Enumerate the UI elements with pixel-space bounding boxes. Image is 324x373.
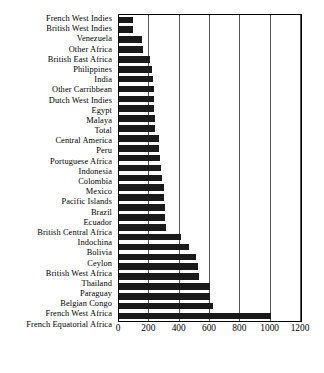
category-label: India: [0, 75, 114, 85]
category-label: Ceylon: [0, 259, 114, 269]
bar-row: [119, 163, 301, 173]
category-label: Pacific Islands: [0, 197, 114, 207]
bar-row: [119, 35, 301, 45]
category-label: Belgian Congo: [0, 299, 114, 309]
bar[interactable]: [119, 56, 150, 63]
bar[interactable]: [119, 283, 210, 290]
bar-row: [119, 74, 301, 84]
bar[interactable]: [119, 46, 143, 53]
bar-row: [119, 25, 301, 35]
bar[interactable]: [119, 76, 153, 83]
category-label: Indochina: [0, 238, 114, 248]
bar[interactable]: [119, 184, 164, 191]
category-axis-labels: French West IndiesBritish West IndiesVen…: [0, 14, 114, 320]
category-label: Dutch West Indies: [0, 96, 114, 106]
bar[interactable]: [119, 105, 154, 112]
bar-row: [119, 143, 301, 153]
category-label: Brazil: [0, 208, 114, 218]
x-tick-label: 1000: [260, 322, 279, 334]
bar-row: [119, 124, 301, 134]
bar-row: [119, 311, 301, 321]
x-axis-tick-labels: 020040060080010001200: [0, 322, 324, 340]
bar[interactable]: [119, 234, 181, 241]
category-label: Venezuela: [0, 34, 114, 44]
x-tick-label: 800: [232, 322, 246, 334]
bar-row: [119, 232, 301, 242]
category-label: British East Africa: [0, 55, 114, 65]
x-tick-label: 200: [141, 322, 155, 334]
category-label: Colombia: [0, 177, 114, 187]
bar-row: [119, 64, 301, 74]
category-label: French West Africa: [0, 309, 114, 319]
bar[interactable]: [119, 155, 160, 162]
category-label: Malaya: [0, 116, 114, 126]
bar[interactable]: [119, 194, 164, 201]
bar-chart: French West IndiesBritish West IndiesVen…: [0, 0, 324, 373]
bar[interactable]: [119, 135, 159, 142]
bar-row: [119, 45, 301, 55]
bar-row: [119, 282, 301, 292]
bar-row: [119, 291, 301, 301]
bar-row: [119, 133, 301, 143]
plot-area: [118, 14, 302, 322]
bar-row: [119, 94, 301, 104]
bar-row: [119, 183, 301, 193]
bar-row: [119, 222, 301, 232]
bar-row: [119, 153, 301, 163]
bar-row: [119, 193, 301, 203]
bar[interactable]: [119, 303, 213, 310]
bar-row: [119, 212, 301, 222]
bar-row: [119, 203, 301, 213]
bar[interactable]: [119, 293, 210, 300]
category-label: Philippines: [0, 65, 114, 75]
bar-row: [119, 301, 301, 311]
bar-row: [119, 54, 301, 64]
bar-row: [119, 242, 301, 252]
bar-row: [119, 114, 301, 124]
bar[interactable]: [119, 263, 198, 270]
category-label: Central America: [0, 136, 114, 146]
bar[interactable]: [119, 36, 142, 43]
category-label: Total: [0, 126, 114, 136]
category-label: Mexico: [0, 187, 114, 197]
category-label: Ecuador: [0, 218, 114, 228]
bar-row: [119, 84, 301, 94]
x-tick-label: 600: [202, 322, 216, 334]
bar[interactable]: [119, 244, 189, 251]
bar-row: [119, 272, 301, 282]
bar[interactable]: [119, 165, 161, 172]
bar[interactable]: [119, 254, 196, 261]
x-tick-label: 400: [172, 322, 186, 334]
x-tick-label: 1200: [291, 322, 310, 334]
category-label: British West Africa: [0, 269, 114, 279]
bar[interactable]: [119, 175, 162, 182]
category-label: Peru: [0, 146, 114, 156]
bar[interactable]: [119, 115, 155, 122]
bar-row: [119, 15, 301, 25]
bar[interactable]: [119, 145, 159, 152]
bar[interactable]: [119, 17, 133, 24]
bar-row: [119, 262, 301, 272]
bar[interactable]: [119, 96, 154, 103]
bar[interactable]: [119, 125, 155, 132]
category-label: Other Carribbean: [0, 85, 114, 95]
bar-row: [119, 173, 301, 183]
bar[interactable]: [119, 86, 154, 93]
bar[interactable]: [119, 224, 166, 231]
bar-row: [119, 252, 301, 262]
category-label: British West Indies: [0, 24, 114, 34]
bar[interactable]: [119, 273, 199, 280]
category-label: Paraguay: [0, 289, 114, 299]
x-tick-label: 0: [116, 322, 121, 334]
category-label: Other Africa: [0, 45, 114, 55]
category-label: Indonesia: [0, 167, 114, 177]
bar[interactable]: [119, 214, 165, 221]
bar[interactable]: [119, 26, 133, 33]
bar[interactable]: [119, 204, 165, 211]
category-label: Egypt: [0, 106, 114, 116]
bar[interactable]: [119, 66, 152, 73]
category-label: British Central Africa: [0, 228, 114, 238]
bar[interactable]: [119, 313, 271, 320]
category-label: French West Indies: [0, 14, 114, 24]
category-label: Portuguese Africa: [0, 157, 114, 167]
